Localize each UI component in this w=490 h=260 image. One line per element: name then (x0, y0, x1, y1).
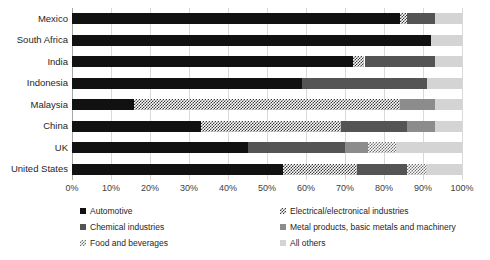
bar-segment (201, 121, 341, 132)
table-row (72, 13, 462, 24)
bar-segment (435, 99, 462, 110)
bar-segment (72, 56, 353, 67)
stacked-bar (72, 78, 462, 89)
x-axis-tick: 90% (414, 183, 432, 193)
legend-item: Chemical industries (80, 223, 164, 232)
legend-label: All others (290, 239, 325, 248)
legend-item: All others (280, 239, 325, 248)
table-row (72, 78, 462, 89)
bar-segment (357, 164, 408, 175)
legend-swatch-icon (280, 224, 286, 230)
stacked-bar (72, 121, 462, 132)
stacked-bar (72, 56, 462, 67)
gridline (462, 8, 463, 180)
table-row (72, 35, 462, 46)
legend-swatch-icon (280, 208, 286, 214)
legend-label: Electrical/electronical industries (290, 207, 409, 216)
bar-rows (72, 8, 462, 180)
bar-segment (72, 142, 248, 153)
table-row (72, 164, 462, 175)
bar-segment (283, 164, 357, 175)
table-row (72, 99, 462, 110)
bar-segment (248, 142, 346, 153)
legend-label: Chemical industries (90, 223, 164, 232)
bar-segment (134, 99, 399, 110)
x-axis-tick-labels: 0%10%20%30%40%50%60%70%80%90%100% (72, 183, 462, 197)
bar-segment (341, 121, 407, 132)
bar-segment (72, 35, 431, 46)
table-row (72, 121, 462, 132)
x-axis-tick: 60% (297, 183, 315, 193)
plot-area (72, 8, 462, 180)
stacked-bar (72, 99, 462, 110)
bar-segment (302, 78, 427, 89)
bar-segment (407, 164, 427, 175)
legend-label: Automotive (90, 207, 133, 216)
bar-segment (353, 56, 365, 67)
y-axis-label: India (0, 57, 68, 67)
bar-segment (435, 121, 462, 132)
stacked-bar (72, 35, 462, 46)
x-axis-tick: 10% (102, 183, 120, 193)
legend-item: Automotive (80, 207, 133, 216)
x-axis-tick: 50% (258, 183, 276, 193)
chart-legend: AutomotiveElectrical/electronical indust… (72, 207, 472, 253)
x-axis-tick: 100% (450, 183, 473, 193)
bar-segment (427, 78, 462, 89)
bar-segment (427, 164, 462, 175)
stacked-bar (72, 13, 462, 24)
x-axis-tick: 30% (180, 183, 198, 193)
bar-segment (396, 142, 462, 153)
bar-segment (72, 13, 400, 24)
y-axis-label: Mexico (0, 14, 68, 24)
legend-label: Metal products, basic metals and machine… (290, 223, 456, 232)
bar-segment (72, 99, 134, 110)
bar-segment (368, 142, 395, 153)
y-axis-label: UK (0, 143, 68, 153)
bar-segment (72, 164, 283, 175)
stacked-bar-chart: MexicoSouth AfricaIndiaIndonesiaMalaysia… (0, 0, 490, 260)
bar-segment (72, 78, 302, 89)
legend-swatch-icon (80, 224, 86, 230)
x-axis-tick: 40% (219, 183, 237, 193)
stacked-bar (72, 164, 462, 175)
bar-segment (400, 13, 408, 24)
y-axis-label: Indonesia (0, 78, 68, 88)
bar-segment (435, 13, 462, 24)
bar-segment (400, 99, 435, 110)
stacked-bar (72, 142, 462, 153)
y-axis-label: Malaysia (0, 100, 68, 110)
y-axis-label: China (0, 121, 68, 131)
legend-label: Food and beverages (90, 239, 168, 248)
x-axis-tick: 80% (375, 183, 393, 193)
legend-swatch-icon (280, 240, 286, 246)
y-axis-label: United States (0, 164, 68, 174)
x-axis-tick: 70% (336, 183, 354, 193)
bar-segment (431, 35, 462, 46)
table-row (72, 56, 462, 67)
bar-segment (435, 56, 462, 67)
table-row (72, 142, 462, 153)
legend-item: Food and beverages (80, 239, 168, 248)
bar-segment (365, 56, 435, 67)
bar-segment (72, 121, 201, 132)
bar-segment (407, 13, 434, 24)
legend-swatch-icon (80, 208, 86, 214)
bar-segment (407, 121, 434, 132)
x-axis-tick: 20% (141, 183, 159, 193)
x-axis-tick: 0% (65, 183, 78, 193)
y-axis-label: South Africa (0, 35, 68, 45)
legend-item: Metal products, basic metals and machine… (280, 223, 456, 232)
bar-segment (345, 142, 368, 153)
legend-item: Electrical/electronical industries (280, 207, 409, 216)
y-axis-category-labels: MexicoSouth AfricaIndiaIndonesiaMalaysia… (0, 8, 68, 180)
legend-swatch-icon (80, 240, 86, 246)
